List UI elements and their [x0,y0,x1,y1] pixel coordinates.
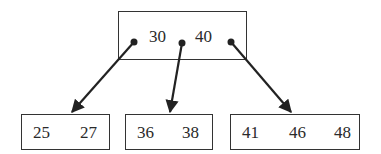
edge-root-to-leaf-1 [72,39,138,113]
pointer-dot-1 [179,40,186,47]
edge-root-to-leaf-3 [228,39,292,113]
pointer-dot-0 [131,39,138,46]
pointer-dot-2 [228,39,235,46]
edge-root-to-leaf-2 [170,40,186,113]
edges-layer [0,0,381,154]
